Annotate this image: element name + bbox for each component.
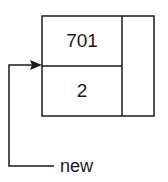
node-bottom-value: 2	[42, 77, 122, 105]
node-top-value: 701	[42, 27, 122, 55]
pointer-label: new	[60, 154, 104, 178]
